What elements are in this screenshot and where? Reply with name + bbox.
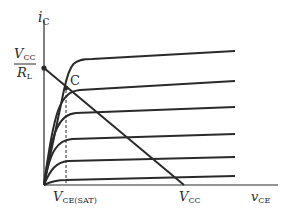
vcc-numerator: VCC bbox=[14, 46, 36, 62]
curve-5 bbox=[44, 81, 235, 185]
vce-sat-label: VCE(SAT) bbox=[53, 189, 97, 205]
y-intercept-dot bbox=[41, 65, 46, 70]
collector-curves bbox=[44, 51, 235, 185]
y-axis-label: iC bbox=[38, 9, 49, 27]
vcc-x-label: VCC bbox=[179, 189, 201, 205]
point-c-label: C bbox=[70, 73, 80, 88]
curve-1 bbox=[44, 176, 235, 185]
point-c-dot bbox=[64, 86, 68, 90]
bjt-characteristic-diagram: iC VCC RL C VCE(SAT) VCC vCE bbox=[0, 0, 293, 210]
x-axis-label: vCE bbox=[251, 189, 270, 205]
rl-denominator: RL bbox=[16, 65, 33, 81]
curve-4 bbox=[44, 107, 235, 185]
curve-6 bbox=[44, 51, 235, 185]
